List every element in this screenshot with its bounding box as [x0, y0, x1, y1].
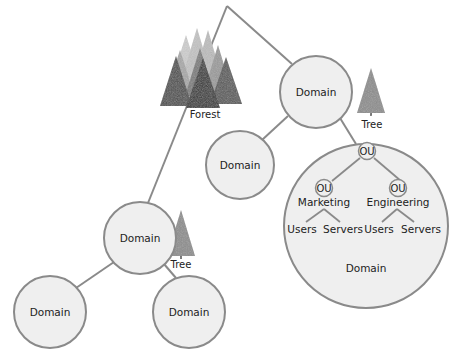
domain-label: Domain — [296, 86, 337, 98]
ou-label: OU — [390, 183, 405, 194]
line-top-to-mid-left-domain — [262, 116, 288, 140]
domain-label: Domain — [30, 306, 71, 318]
forest-label: Forest — [190, 109, 221, 120]
domain-label: Domain — [220, 159, 261, 171]
domain-label: Domain — [169, 306, 210, 318]
leaf-servers: Servers — [401, 223, 441, 235]
ou-label: OU — [316, 183, 331, 194]
leaf-servers: Servers — [323, 223, 363, 235]
forest-icon — [160, 28, 242, 108]
domain-label: Domain — [346, 262, 387, 274]
domain-label: Domain — [120, 232, 161, 244]
diagram-canvas: Forest Tree Tree Domain Domain Domain Do… — [0, 0, 449, 358]
tree-label: Tree — [170, 259, 192, 270]
ou-label: OU — [359, 146, 374, 157]
leaf-users: Users — [364, 223, 393, 235]
line-top-to-large-domain — [340, 118, 356, 144]
tree-label: Tree — [361, 119, 383, 130]
line-apex-to-top-domain — [227, 6, 292, 64]
ou-name-engineering: Engineering — [367, 196, 430, 208]
tree-icon — [357, 68, 385, 116]
line-to-bottom-left-domain — [76, 262, 114, 288]
ou-name-marketing: Marketing — [298, 196, 350, 208]
leaf-users: Users — [287, 223, 316, 235]
